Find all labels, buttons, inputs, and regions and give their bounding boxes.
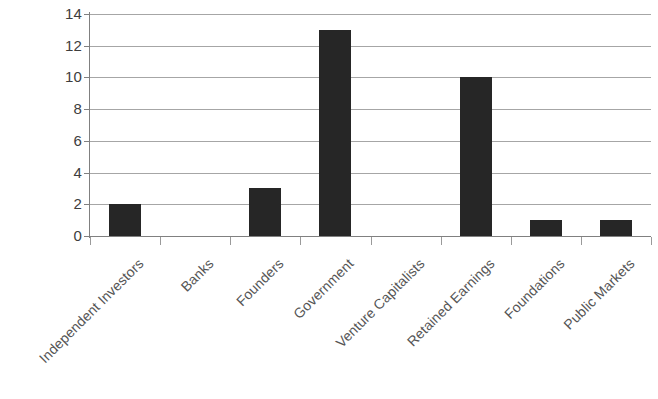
y-axis-tick-label: 10: [8, 69, 82, 84]
y-tick-2: [84, 204, 90, 205]
x-tick: [230, 237, 231, 245]
x-axis-category-label: Public Markets: [561, 256, 637, 332]
x-tick: [651, 237, 652, 245]
x-axis-category-label: Independent Investors: [37, 256, 146, 365]
x-axis-line: [89, 236, 651, 237]
y-axis-tick-label: 2: [8, 196, 82, 211]
y-axis-tick-label: 6: [8, 133, 82, 148]
bar[interactable]: [460, 77, 492, 236]
x-axis-category-label: Foundations: [502, 256, 567, 321]
y-axis-tick-label: 0: [8, 228, 82, 243]
y-axis-tick-label: 14: [8, 6, 82, 21]
x-axis-category-label: Banks: [178, 256, 216, 294]
y-tick-14: [84, 14, 90, 15]
bar[interactable]: [319, 30, 351, 236]
y-axis-tick-label: 8: [8, 101, 82, 116]
y-axis-tick-label: 4: [8, 165, 82, 180]
x-tick: [300, 237, 301, 245]
bar-chart: 14121086420 Independent InvestorsBanksFo…: [0, 0, 658, 399]
bar[interactable]: [530, 220, 562, 236]
y-tick-10: [84, 77, 90, 78]
x-tick: [441, 237, 442, 245]
bar[interactable]: [109, 204, 141, 236]
y-axis-tick-label: 12: [8, 38, 82, 53]
y-tick-4: [84, 173, 90, 174]
x-axis-category-label: Government: [291, 256, 356, 321]
x-tick: [581, 237, 582, 245]
x-tick: [90, 237, 91, 245]
x-axis-category-label: Founders: [234, 256, 286, 308]
x-tick: [371, 237, 372, 245]
x-tick: [511, 237, 512, 245]
x-tick: [160, 237, 161, 245]
bars-layer: [90, 14, 651, 236]
y-tick-8: [84, 109, 90, 110]
bar[interactable]: [249, 188, 281, 236]
bar[interactable]: [600, 220, 632, 236]
y-tick-12: [84, 46, 90, 47]
y-axis-labels: 14121086420: [0, 0, 82, 250]
y-tick-6: [84, 141, 90, 142]
